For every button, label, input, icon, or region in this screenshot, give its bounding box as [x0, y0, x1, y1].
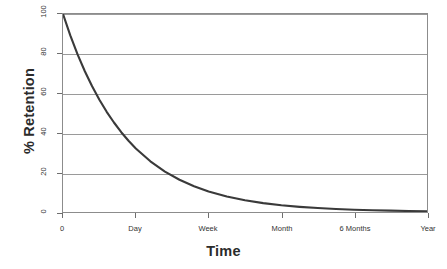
y-tick-label-20: 20 — [32, 167, 54, 176]
y-tick-label-text: 40 — [39, 127, 48, 135]
y-tick-label-text: 60 — [39, 87, 48, 95]
retention-curve — [63, 14, 427, 212]
x-tick-mark-3 — [282, 213, 283, 218]
x-axis-title: Time — [0, 243, 447, 259]
x-tick-mark-5 — [428, 213, 429, 218]
x-tick-label-5: Year — [420, 224, 435, 233]
x-tick-mark-2 — [208, 213, 209, 218]
x-tick-mark-4 — [355, 213, 356, 218]
y-tick-label-80: 80 — [32, 47, 54, 56]
retention-curve-line — [63, 14, 427, 211]
y-axis-title-text: % Retention — [21, 68, 37, 154]
x-tick-label-0: 0 — [60, 224, 64, 233]
x-tick-mark-0 — [62, 213, 63, 218]
x-tick-label-3: Month — [272, 224, 293, 233]
y-tick-label-40: 40 — [32, 127, 54, 136]
y-tick-label-100: 100 — [32, 7, 54, 16]
forgetting-curve-figure: % Retention 020406080100 0DayWeekMonth6 … — [0, 0, 447, 269]
x-tick-mark-1 — [135, 213, 136, 218]
x-tick-label-4: 6 Months — [340, 224, 371, 233]
y-tick-label-0: 0 — [32, 207, 54, 216]
x-tick-label-2: Week — [198, 224, 217, 233]
y-tick-label-60: 60 — [32, 87, 54, 96]
y-axis-title: % Retention — [14, 0, 44, 222]
y-tick-label-text: 20 — [39, 167, 48, 175]
y-tick-label-text: 100 — [38, 5, 47, 18]
x-tick-label-1: Day — [128, 224, 141, 233]
y-tick-label-text: 0 — [38, 209, 47, 213]
y-tick-label-text: 80 — [39, 47, 48, 55]
plot-area — [62, 13, 428, 213]
